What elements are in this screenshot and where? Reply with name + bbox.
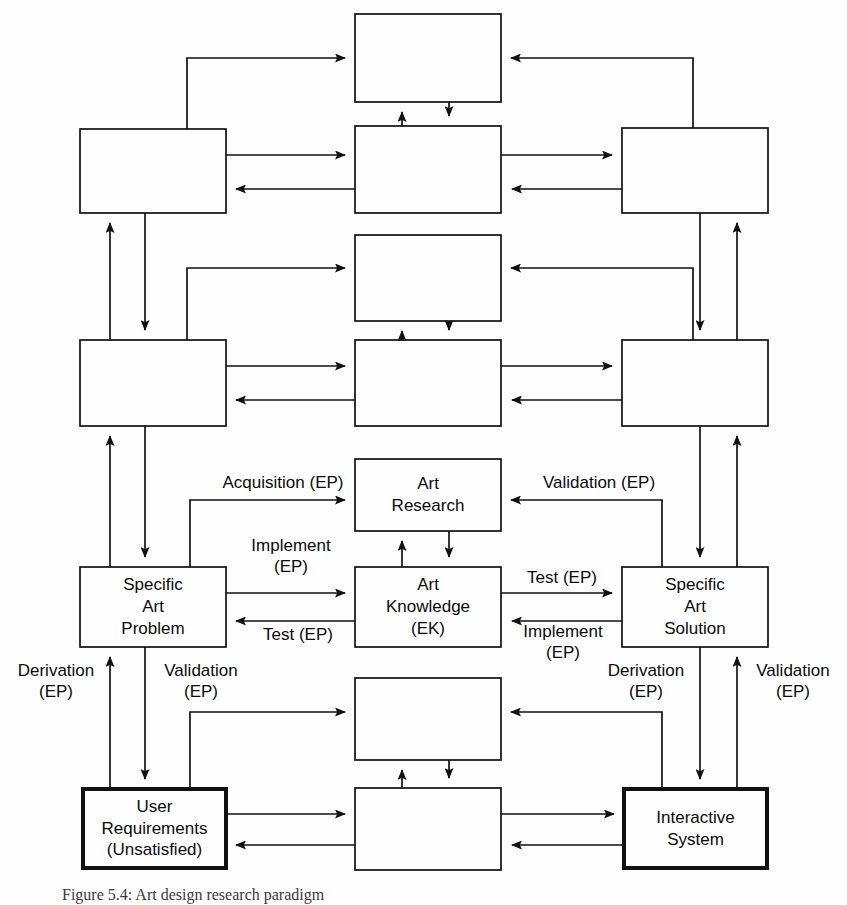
edge-label-test-ep-problem-text: Test (EP) bbox=[263, 625, 333, 644]
diagram-graphics bbox=[0, 0, 847, 905]
edge-label-validation-ep-research: Validation (EP) bbox=[524, 473, 674, 494]
edge-label-derivation-ep-left: Derivation (EP) bbox=[6, 661, 106, 702]
edge-label-validation-ep-right-line-1: Validation bbox=[745, 661, 841, 682]
edge-label-test-ep-solution: Test (EP) bbox=[514, 568, 610, 589]
edge-label-derivation-ep-right-line-1: Derivation bbox=[596, 661, 696, 682]
edge-label-validation-ep-right-line-2: (EP) bbox=[745, 682, 841, 703]
figure-canvas: Art Research Specific Art Problem Art Kn… bbox=[0, 0, 847, 905]
edge-label-validation-ep-left-line-2: (EP) bbox=[153, 682, 249, 703]
edge-label-implement-ep-solution-line-1: Implement bbox=[508, 622, 618, 643]
figure-caption: Figure 5.4: Art design research paradigm bbox=[62, 886, 324, 904]
edge-label-acquisition-ep: Acquisition (EP) bbox=[203, 473, 363, 494]
edge-label-implement-ep-solution: Implement (EP) bbox=[508, 622, 618, 663]
edge-label-validation-ep-right: Validation (EP) bbox=[745, 661, 841, 702]
edge-label-implement-ep-problem-line-1: Implement bbox=[236, 536, 346, 557]
edge-label-derivation-ep-right: Derivation (EP) bbox=[596, 661, 696, 702]
edge-label-validation-ep-left: Validation (EP) bbox=[153, 661, 249, 702]
edge-label-validation-ep-research-text: Validation (EP) bbox=[543, 473, 655, 492]
edge-label-implement-ep-problem: Implement (EP) bbox=[236, 536, 346, 577]
edge-label-acquisition-ep-text: Acquisition (EP) bbox=[223, 473, 344, 492]
edge-label-test-ep-problem: Test (EP) bbox=[248, 625, 348, 646]
edge-label-derivation-ep-right-line-2: (EP) bbox=[596, 682, 696, 703]
edge-label-derivation-ep-left-line-1: Derivation bbox=[6, 661, 106, 682]
edge-label-validation-ep-left-line-1: Validation bbox=[153, 661, 249, 682]
edge-label-implement-ep-problem-line-2: (EP) bbox=[236, 557, 346, 578]
edge-label-derivation-ep-left-line-2: (EP) bbox=[6, 682, 106, 703]
edge-label-test-ep-solution-text: Test (EP) bbox=[527, 568, 597, 587]
